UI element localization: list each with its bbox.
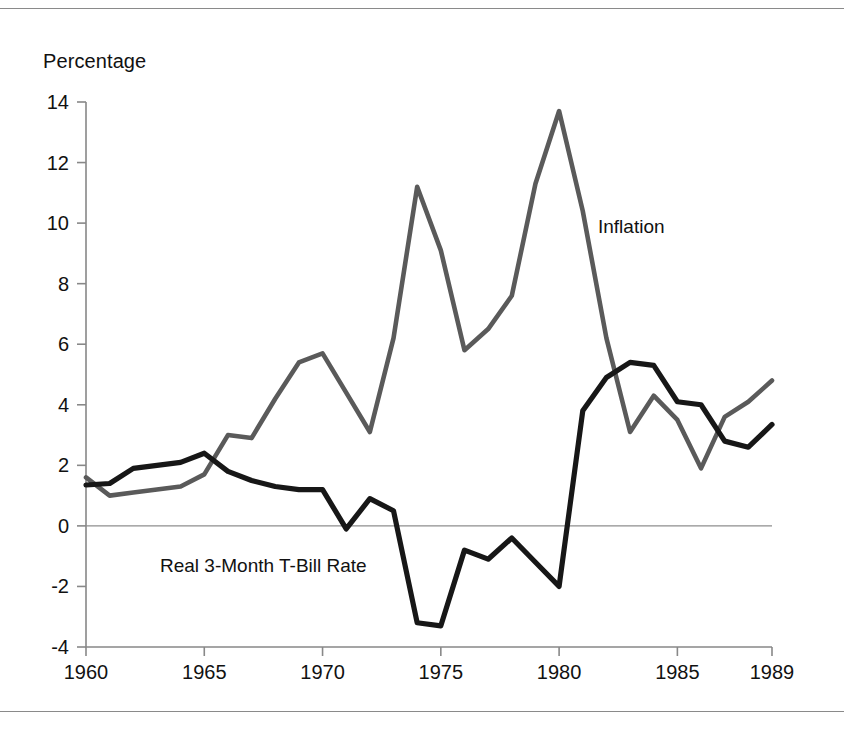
series-line-inflation (86, 111, 772, 496)
y-tick-label: 2 (27, 454, 69, 477)
x-tick-label: 1985 (642, 661, 712, 684)
line-chart-plot (0, 0, 844, 729)
x-tick-label: 1975 (406, 661, 476, 684)
series-label-real-3-month-t-bill-rate: Real 3-Month T-Bill Rate (160, 555, 367, 577)
chart-series-group (86, 111, 772, 626)
y-tick-label: 8 (27, 272, 69, 295)
x-tick-label: 1960 (51, 661, 121, 684)
x-tick-label: 1970 (288, 661, 358, 684)
y-tick-label: 4 (27, 393, 69, 416)
y-tick-label: 10 (27, 212, 69, 235)
y-tick-label: -4 (27, 636, 69, 659)
y-tick-label: 0 (27, 514, 69, 537)
y-tick-label: 12 (27, 151, 69, 174)
series-label-inflation: Inflation (598, 216, 665, 238)
y-tick-label: -2 (27, 575, 69, 598)
y-tick-label: 6 (27, 333, 69, 356)
x-tick-label: 1980 (524, 661, 594, 684)
series-line-real-3-month-t-bill-rate (86, 362, 772, 625)
figure: Percentage -4-20246810121419601965197019… (0, 0, 844, 729)
x-tick-label: 1965 (169, 661, 239, 684)
y-tick-label: 14 (27, 91, 69, 114)
x-tick-label: 1989 (737, 661, 807, 684)
